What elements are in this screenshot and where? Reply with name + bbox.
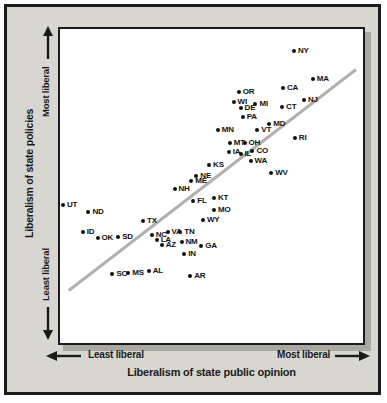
point-label: NJ <box>308 95 318 104</box>
point-dot <box>280 105 284 109</box>
point-dot <box>96 236 100 240</box>
point-dot <box>182 252 186 256</box>
point-label: GA <box>205 241 217 250</box>
x-axis-left-label: Least liberal <box>88 349 144 360</box>
point-label: CO <box>256 146 268 155</box>
point-label: WY <box>207 215 220 224</box>
point-dot <box>232 100 236 104</box>
point-dot <box>239 106 243 110</box>
x-axis-title: Liberalism of state public opinion <box>58 366 365 378</box>
point-dot <box>189 179 193 183</box>
x-axis-right-label: Most liberal <box>277 349 330 360</box>
point-label: DE <box>245 103 256 112</box>
arrow-up-icon <box>42 26 54 60</box>
point-label: IN <box>188 249 196 258</box>
point-label: MO <box>218 205 231 214</box>
point-label: TN <box>184 227 194 236</box>
point-dot <box>311 77 315 81</box>
arrow-down-icon <box>42 306 54 340</box>
point-dot <box>293 136 297 140</box>
point-dot <box>227 150 231 154</box>
point-label: VT <box>261 125 271 134</box>
point-label: NY <box>298 46 309 55</box>
point-label: SD <box>122 232 133 241</box>
point-label: AZ <box>166 240 176 249</box>
point-dot <box>147 269 151 273</box>
point-dot <box>110 272 114 276</box>
point-dot <box>141 219 145 223</box>
point-dot <box>212 196 216 200</box>
figure-root: Most liberal Liberalism of state policie… <box>0 0 387 403</box>
point-label: OR <box>243 87 255 96</box>
point-label: OK <box>102 233 114 242</box>
point-dot <box>207 163 211 167</box>
point-dot <box>61 203 65 207</box>
point-label: MA <box>317 74 329 83</box>
point-label: WA <box>255 156 268 165</box>
point-dot <box>188 274 192 278</box>
point-dot <box>199 244 203 248</box>
point-dot <box>212 208 216 212</box>
point-dot <box>191 199 195 203</box>
point-dot <box>116 235 120 239</box>
point-label: KT <box>218 193 228 202</box>
y-axis-bottom-label: Least liberal <box>40 241 56 309</box>
y-axis-title: Liberalism of state policies <box>23 88 41 258</box>
point-label: TX <box>147 216 157 225</box>
point-label: ME <box>195 176 207 185</box>
point-dot <box>160 243 164 247</box>
point-label: AL <box>153 266 163 275</box>
point-label: OH <box>249 138 261 147</box>
point-dot <box>180 240 184 244</box>
points-layer: NYMACAORNJWIMICTDEPAMDMNVTRIMTOHCOIAILWA… <box>60 29 363 343</box>
arrow-left-icon <box>46 351 82 361</box>
y-axis-top-label: Most liberal <box>40 58 56 126</box>
point-dot <box>126 271 130 275</box>
point-label: CT <box>286 102 296 111</box>
point-label: NH <box>179 184 190 193</box>
point-dot <box>155 238 159 242</box>
point-dot <box>237 90 241 94</box>
point-dot <box>216 128 220 132</box>
point-label: IL <box>245 149 252 158</box>
point-dot <box>255 128 259 132</box>
point-label: AR <box>194 271 205 280</box>
point-label: KS <box>213 160 224 169</box>
point-dot <box>243 141 247 145</box>
arrow-right-icon <box>334 351 370 361</box>
plot-area: NYMACAORNJWIMICTDEPAMDMNVTRIMTOHCOIAILWA… <box>58 27 365 345</box>
point-dot <box>281 86 285 90</box>
point-label: PA <box>247 112 257 121</box>
point-label: ID <box>87 227 95 236</box>
point-dot <box>173 187 177 191</box>
point-label: MD <box>273 119 285 128</box>
point-dot <box>150 233 154 237</box>
point-dot <box>239 152 243 156</box>
point-dot <box>249 159 253 163</box>
point-dot <box>241 115 245 119</box>
point-dot <box>269 171 273 175</box>
point-label: RI <box>299 133 307 142</box>
point-label: ND <box>92 207 103 216</box>
point-label: MI <box>259 99 268 108</box>
point-label: FL <box>197 196 206 205</box>
point-dot <box>292 49 296 53</box>
point-dot <box>86 210 90 214</box>
point-dot <box>228 141 232 145</box>
point-label: WV <box>275 168 288 177</box>
point-label: UT <box>67 200 77 209</box>
point-dot <box>81 230 85 234</box>
point-label: MS <box>132 268 144 277</box>
point-label: CA <box>287 83 298 92</box>
point-label: NM <box>186 237 198 246</box>
point-label: MN <box>222 125 234 134</box>
point-dot <box>302 98 306 102</box>
point-dot <box>201 218 205 222</box>
